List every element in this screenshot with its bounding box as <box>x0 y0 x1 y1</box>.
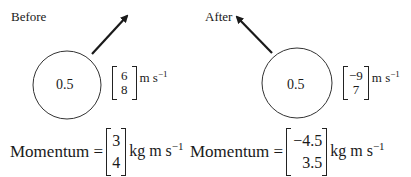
after-velocity-matrix: −9 7 <box>343 66 369 100</box>
before-velocity-vector: 6 8 m s−1 <box>112 66 168 100</box>
before-title: Before <box>11 9 46 25</box>
before-momentum-unit: kg m s−1 <box>129 140 183 160</box>
after-velocity-arrow-icon <box>237 17 272 53</box>
after-momentum-unit: kg m s−1 <box>330 140 384 160</box>
before-velocity-x: 6 <box>121 69 128 83</box>
after-velocity-y: 7 <box>353 83 360 97</box>
before-velocity-y: 8 <box>121 83 128 97</box>
before-momentum-matrix: 3 4 <box>106 128 126 176</box>
after-momentum-label: Momentum = <box>190 142 283 162</box>
before-velocity-arrow-icon <box>92 16 127 54</box>
before-velocity-unit: m s−1 <box>140 69 168 86</box>
after-momentum-y: 3.5 <box>302 152 322 174</box>
after-velocity-vector: −9 7 m s−1 <box>343 66 400 100</box>
after-momentum-matrix: −4.5 3.5 <box>286 128 327 176</box>
before-momentum-label: Momentum = <box>10 142 103 162</box>
after-momentum: Momentum = −4.5 3.5 kg m s−1 <box>190 128 385 176</box>
after-mass: 0.5 <box>287 77 305 93</box>
after-velocity-x: −9 <box>349 69 363 83</box>
before-momentum-x: 3 <box>112 130 120 152</box>
after-title: After <box>205 9 232 25</box>
before-velocity-matrix: 6 8 <box>112 66 137 100</box>
after-momentum-x: −4.5 <box>293 130 322 152</box>
before-momentum-y: 4 <box>112 152 120 174</box>
after-velocity-unit: m s−1 <box>372 69 400 86</box>
before-mass: 0.5 <box>56 77 74 93</box>
before-momentum: Momentum = 3 4 kg m s−1 <box>10 128 184 176</box>
